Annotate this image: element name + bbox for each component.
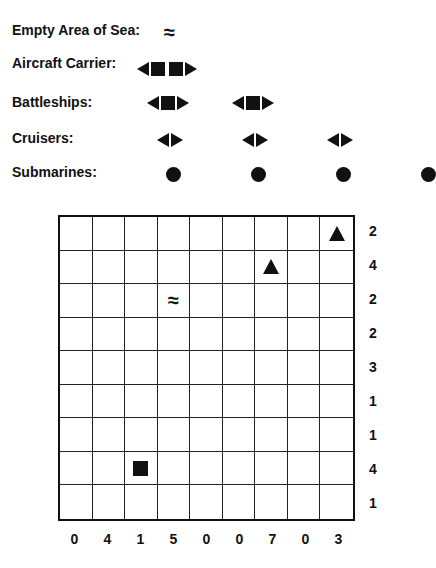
legend-label-aircraft-carrier: Aircraft Carrier: [12, 55, 116, 71]
grid-cell-r6-c6[interactable] [255, 418, 288, 452]
grid-cell-r8-c2[interactable] [125, 485, 158, 519]
grid-cell-r3-c5[interactable] [223, 318, 256, 352]
grid-cell-r0-c8[interactable] [320, 217, 353, 251]
grid-cell-r5-c3[interactable] [158, 385, 191, 419]
grid-cell-r6-c4[interactable] [190, 418, 223, 452]
grid-cell-r6-c2[interactable] [125, 418, 158, 452]
grid-cell-r6-c1[interactable] [93, 418, 126, 452]
grid-cell-r3-c2[interactable] [125, 318, 158, 352]
grid-cell-r5-c6[interactable] [255, 385, 288, 419]
grid-cell-r1-c1[interactable] [93, 251, 126, 285]
grid-cell-r0-c3[interactable] [158, 217, 191, 251]
grid-cell-r4-c1[interactable] [93, 351, 126, 385]
grid-cell-r1-c2[interactable] [125, 251, 158, 285]
grid-cell-r4-c7[interactable] [288, 351, 321, 385]
grid-cell-r0-c2[interactable] [125, 217, 158, 251]
grid-cell-r0-c5[interactable] [223, 217, 256, 251]
grid-cell-r2-c7[interactable] [288, 284, 321, 318]
aircraft-carrier-icon [137, 62, 197, 76]
grid-cell-r5-c8[interactable] [320, 385, 353, 419]
grid-cell-r0-c7[interactable] [288, 217, 321, 251]
grid-cell-r3-c8[interactable] [320, 318, 353, 352]
grid-cell-r4-c6[interactable] [255, 351, 288, 385]
row-clue: 3 [366, 359, 380, 375]
grid-cell-r4-c0[interactable] [60, 351, 93, 385]
grid-cell-r2-c5[interactable] [223, 284, 256, 318]
grid-cell-r4-c8[interactable] [320, 351, 353, 385]
grid-cell-r6-c0[interactable] [60, 418, 93, 452]
column-clue: 4 [91, 531, 124, 547]
grid-cell-r1-c7[interactable] [288, 251, 321, 285]
grid-cell-r3-c7[interactable] [288, 318, 321, 352]
grid-cell-r7-c2[interactable] [125, 452, 158, 486]
grid-cell-r4-c5[interactable] [223, 351, 256, 385]
grid-cell-r6-c3[interactable] [158, 418, 191, 452]
grid-cell-r2-c4[interactable] [190, 284, 223, 318]
grid-cell-r8-c0[interactable] [60, 485, 93, 519]
legend-label-empty-sea: Empty Area of Sea: [12, 22, 140, 38]
grid-cell-r7-c4[interactable] [190, 452, 223, 486]
grid-cell-r5-c7[interactable] [288, 385, 321, 419]
grid-cell-r2-c1[interactable] [93, 284, 126, 318]
grid-cell-r3-c0[interactable] [60, 318, 93, 352]
grid-cell-r7-c0[interactable] [60, 452, 93, 486]
grid-cell-r2-c2[interactable] [125, 284, 158, 318]
grid-cell-r2-c8[interactable] [320, 284, 353, 318]
legend-label-submarines: Submarines: [12, 164, 97, 180]
grid-cell-r5-c5[interactable] [223, 385, 256, 419]
grid-cell-r8-c7[interactable] [288, 485, 321, 519]
battleship-icon [232, 96, 274, 110]
grid-cell-r6-c7[interactable] [288, 418, 321, 452]
row-clue: 2 [366, 223, 380, 239]
grid-cell-r3-c4[interactable] [190, 318, 223, 352]
grid-cell-r7-c8[interactable] [320, 452, 353, 486]
grid-cell-r3-c1[interactable] [93, 318, 126, 352]
grid-cell-r7-c1[interactable] [93, 452, 126, 486]
grid-cell-r5-c0[interactable] [60, 385, 93, 419]
grid-cell-r8-c4[interactable] [190, 485, 223, 519]
grid-cell-r7-c5[interactable] [223, 452, 256, 486]
wave-icon: ≈ [168, 290, 179, 310]
grid-cell-r7-c6[interactable] [255, 452, 288, 486]
grid-cell-r0-c0[interactable] [60, 217, 93, 251]
grid-cell-r0-c4[interactable] [190, 217, 223, 251]
grid-cell-r1-c0[interactable] [60, 251, 93, 285]
grid-cell-r8-c5[interactable] [223, 485, 256, 519]
grid-cell-r6-c8[interactable] [320, 418, 353, 452]
legend-label-cruisers: Cruisers: [12, 130, 73, 146]
grid-cell-r4-c3[interactable] [158, 351, 191, 385]
grid-cell-r2-c3[interactable]: ≈ [158, 284, 191, 318]
grid-cell-r0-c6[interactable] [255, 217, 288, 251]
submarine-icon [251, 167, 266, 182]
grid-cell-r0-c1[interactable] [93, 217, 126, 251]
grid-cell-r7-c7[interactable] [288, 452, 321, 486]
column-clue: 1 [124, 531, 157, 547]
grid-cell-r2-c0[interactable] [60, 284, 93, 318]
ship-end-right-icon [185, 62, 197, 76]
grid-cell-r5-c4[interactable] [190, 385, 223, 419]
grid-cell-r5-c1[interactable] [93, 385, 126, 419]
grid-cell-r6-c5[interactable] [223, 418, 256, 452]
ship-middle-icon [169, 62, 183, 76]
grid-cell-r7-c3[interactable] [158, 452, 191, 486]
grid-cell-r1-c3[interactable] [158, 251, 191, 285]
square-icon [133, 461, 148, 476]
grid-cell-r2-c6[interactable] [255, 284, 288, 318]
battleship-icon [147, 96, 189, 110]
grid-cell-r1-c5[interactable] [223, 251, 256, 285]
grid-cell-r3-c6[interactable] [255, 318, 288, 352]
grid-cell-r8-c1[interactable] [93, 485, 126, 519]
grid-cell-r3-c3[interactable] [158, 318, 191, 352]
grid-cell-r8-c8[interactable] [320, 485, 353, 519]
grid-cell-r1-c8[interactable] [320, 251, 353, 285]
grid-cell-r4-c2[interactable] [125, 351, 158, 385]
submarine-icon [421, 167, 436, 182]
grid-cell-r1-c6[interactable] [255, 251, 288, 285]
grid-cell-r1-c4[interactable] [190, 251, 223, 285]
ship-middle-icon [151, 62, 165, 76]
grid-cell-r5-c2[interactable] [125, 385, 158, 419]
grid-cell-r4-c4[interactable] [190, 351, 223, 385]
column-clue: 0 [289, 531, 322, 547]
grid-cell-r8-c6[interactable] [255, 485, 288, 519]
grid-cell-r8-c3[interactable] [158, 485, 191, 519]
